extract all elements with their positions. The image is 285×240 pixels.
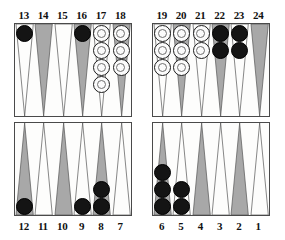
checker-black-point-9[interactable]	[74, 198, 91, 215]
point-label-3: 3	[211, 219, 229, 233]
point-labels-top: 131415161718192021222324	[0, 8, 285, 22]
checker-black-point-22[interactable]	[212, 25, 229, 42]
point-4[interactable]	[192, 123, 211, 215]
point-label-13: 13	[15, 8, 33, 22]
point-label-18: 18	[111, 8, 129, 22]
point-triangle-7	[112, 123, 131, 215]
point-label-20: 20	[172, 8, 190, 22]
point-label-23: 23	[230, 8, 248, 22]
point-triangle-24	[250, 24, 269, 116]
point-label-11: 11	[34, 219, 52, 233]
checker-black-point-6[interactable]	[154, 198, 171, 215]
point-triangle-3	[211, 123, 230, 215]
point-triangle-10	[54, 123, 73, 215]
point-7[interactable]	[112, 123, 131, 215]
point-1[interactable]	[250, 123, 269, 215]
point-label-19: 19	[153, 8, 171, 22]
quadrant-top-right-inner	[153, 24, 269, 116]
checker-black-point-6[interactable]	[154, 164, 171, 181]
point-label-5: 5	[172, 219, 190, 233]
point-label-12: 12	[15, 219, 33, 233]
point-label-17: 17	[92, 8, 110, 22]
point-triangle-2	[230, 123, 249, 215]
point-label-16: 16	[73, 8, 91, 22]
point-label-22: 22	[211, 8, 229, 22]
point-triangle-1	[250, 123, 269, 215]
checker-black-point-12[interactable]	[16, 198, 33, 215]
quadrant-bottom-right-inner	[153, 123, 269, 215]
checker-white-point-18[interactable]	[113, 25, 130, 42]
point-24[interactable]	[250, 24, 269, 116]
point-15[interactable]	[54, 24, 73, 116]
point-10[interactable]	[54, 123, 73, 215]
quadrant-top-right	[152, 23, 270, 117]
checker-white-point-19[interactable]	[154, 25, 171, 42]
point-triangle-11	[34, 123, 53, 215]
point-triangle-15	[54, 24, 73, 116]
checker-white-point-18[interactable]	[113, 42, 130, 59]
point-label-21: 21	[191, 8, 209, 22]
checker-white-point-21[interactable]	[193, 25, 210, 42]
point-label-2: 2	[230, 219, 248, 233]
point-triangle-14	[34, 24, 53, 116]
checker-black-point-6[interactable]	[154, 181, 171, 198]
point-label-6: 6	[153, 219, 171, 233]
point-2[interactable]	[230, 123, 249, 215]
quadrant-top-left	[14, 23, 132, 117]
point-label-7: 7	[111, 219, 129, 233]
checker-white-point-19[interactable]	[154, 59, 171, 76]
point-label-9: 9	[73, 219, 91, 233]
point-14[interactable]	[34, 24, 53, 116]
point-triangle-4	[192, 123, 211, 215]
checker-white-point-21[interactable]	[193, 42, 210, 59]
checker-white-point-19[interactable]	[154, 42, 171, 59]
point-labels-bottom: 121110987654321	[0, 219, 285, 233]
point-label-10: 10	[53, 219, 71, 233]
point-label-15: 15	[53, 8, 71, 22]
quadrant-bottom-right	[152, 122, 270, 216]
point-label-24: 24	[249, 8, 267, 22]
checker-black-point-13[interactable]	[16, 25, 33, 42]
checker-black-point-22[interactable]	[212, 42, 229, 59]
point-11[interactable]	[34, 123, 53, 215]
point-label-14: 14	[34, 8, 52, 22]
quadrant-bottom-left	[14, 122, 132, 216]
quadrant-bottom-left-inner	[15, 123, 131, 215]
point-label-1: 1	[249, 219, 267, 233]
checker-black-point-16[interactable]	[74, 25, 91, 42]
quadrant-top-left-inner	[15, 24, 131, 116]
point-3[interactable]	[211, 123, 230, 215]
checker-white-point-18[interactable]	[113, 59, 130, 76]
backgammon-board: 131415161718192021222324 121110987654321	[0, 0, 285, 240]
point-label-4: 4	[191, 219, 209, 233]
point-label-8: 8	[92, 219, 110, 233]
